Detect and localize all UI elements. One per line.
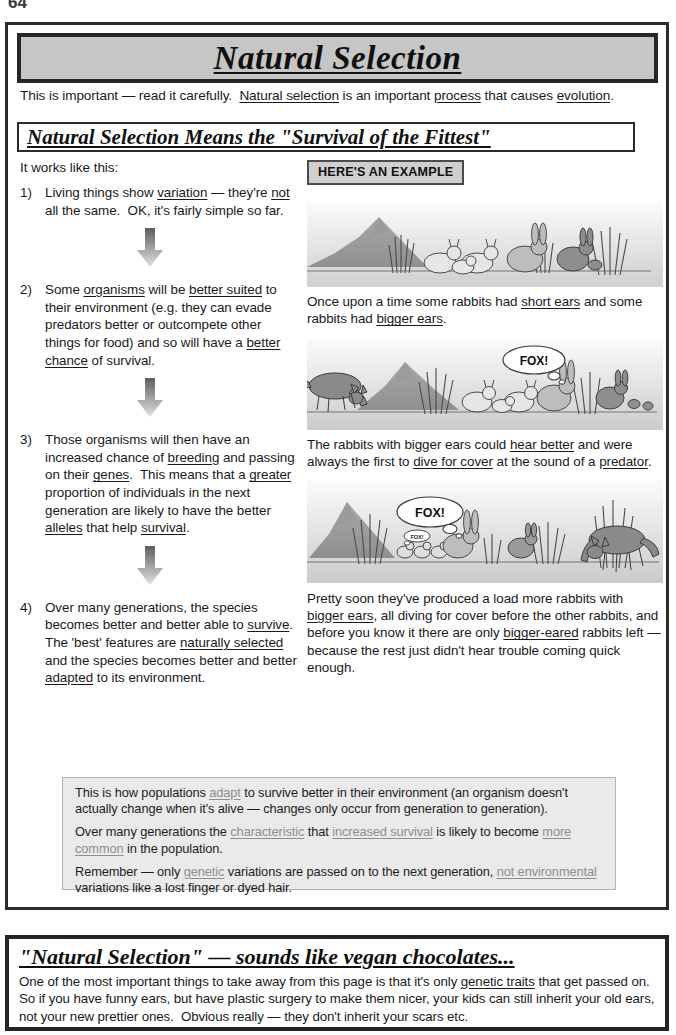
down-arrow-icon xyxy=(135,546,165,586)
caption-3: Pretty soon they've produced a load more… xyxy=(307,590,663,677)
step-text: Those organisms will then have an increa… xyxy=(45,432,295,535)
svg-text:FOX!: FOX! xyxy=(520,354,549,368)
step-text: Living things show variation — they're n… xyxy=(45,185,290,218)
step-number: 1) xyxy=(20,184,32,202)
step-number: 2) xyxy=(20,281,32,299)
step-number: 3) xyxy=(20,431,32,449)
page-title-banner: Natural Selection xyxy=(17,33,658,83)
illustration-fox-approaching-rabbits: FOX! xyxy=(307,338,663,430)
summary-paragraph-1: This is how populations adapt to survive… xyxy=(75,785,603,817)
heres-an-example-tag: HERE'S AN EXAMPLE xyxy=(307,160,464,185)
illustration-many-big-eared-rabbits-and-fox: FOX! FOX! xyxy=(307,480,663,583)
steps-column: It works like this: 1) Living things sho… xyxy=(20,160,300,687)
step-text: Some organisms will be better suited to … xyxy=(45,282,280,367)
example-column: HERE'S AN EXAMPLE xyxy=(307,160,663,677)
step-2: 2) Some organisms will be better suited … xyxy=(20,281,300,369)
section-heading: Natural Selection Means the "Survival of… xyxy=(27,125,491,150)
bottom-summary-box: "Natural Selection" — sounds like vegan … xyxy=(5,935,669,1031)
page-title: Natural Selection xyxy=(214,40,462,77)
down-arrow-icon xyxy=(135,228,165,268)
step-4: 4) Over many generations, the species be… xyxy=(20,599,300,687)
summary-paragraph-2: Over many generations the characteristic… xyxy=(75,824,603,856)
step-3: 3) Those organisms will then have an inc… xyxy=(20,431,300,537)
step-1: 1) Living things show variation — they'r… xyxy=(20,184,300,219)
down-arrow-icon xyxy=(135,378,165,418)
bottom-box-title: "Natural Selection" — sounds like vegan … xyxy=(19,944,655,970)
svg-text:FOX!: FOX! xyxy=(415,506,445,520)
summary-paragraph-3: Remember — only genetic variations are p… xyxy=(75,864,603,896)
caption-2: The rabbits with bigger ears could hear … xyxy=(307,436,663,471)
section-heading-box: Natural Selection Means the "Survival of… xyxy=(17,122,635,152)
caption-1: Once upon a time some rabbits had short … xyxy=(307,293,663,328)
step-number: 4) xyxy=(20,599,32,617)
summary-box: This is how populations adapt to survive… xyxy=(62,777,616,890)
svg-text:FOX!: FOX! xyxy=(410,534,423,540)
page-number: 64 xyxy=(8,0,27,13)
illustration-rabbits-on-hillside xyxy=(307,201,663,287)
bottom-box-body: One of the most important things to take… xyxy=(19,973,655,1025)
intro-text: This is important — read it carefully. N… xyxy=(20,88,660,103)
step-text: Over many generations, the species becom… xyxy=(45,600,297,685)
lead-in-text: It works like this: xyxy=(20,160,300,175)
